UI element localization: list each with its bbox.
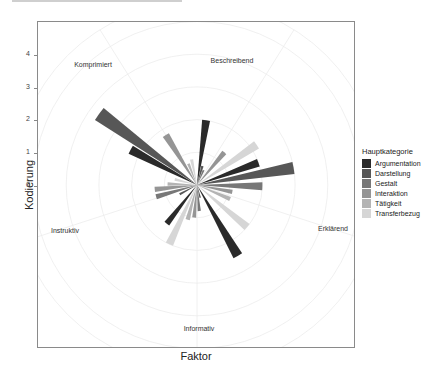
y-tick-2: 2 [26,115,30,122]
legend-swatch [362,169,371,178]
category-label-4: Komprimiert [74,61,112,69]
category-label-3: Instruktiv [51,227,80,234]
legend-swatch [362,199,371,208]
category-label-2: Informativ [184,325,215,332]
legend-item-interaktion: Interaktion [362,188,421,198]
legend-swatch [362,209,371,218]
legend-item-transferbezug: Transferbezug [362,208,421,218]
bar-argumentation [129,146,197,185]
x-axis-title: Faktor [180,350,211,362]
y-tick-mark [34,120,37,121]
legend-title: Hauptkategorie [362,147,421,156]
legend-swatch [362,159,371,168]
y-tick-3: 3 [26,83,30,90]
legend-swatch [362,179,371,188]
category-label-0: Beschreibend [211,57,254,64]
legend-item-taetigkeit: Tätigkeit [362,198,421,208]
bar-darstellung [95,108,197,185]
y-tick-mark [34,88,37,89]
legend: Hauptkategorie Argumentation Darstellung… [362,147,421,218]
legend-item-argumentation: Argumentation [362,158,421,168]
legend-item-darstellung: Darstellung [362,168,421,178]
bars [95,108,295,258]
bar-interaktion [163,133,197,185]
y-tick-0: 0 [26,181,30,188]
y-tick-mark [34,55,37,56]
bar-gestalt [197,185,201,211]
y-tick-mark [34,186,37,187]
y-tick-mark [34,153,37,154]
y-tick-4: 4 [26,50,30,57]
category-label-1: Erklärend [318,225,348,232]
y-tick-1: 1 [26,148,30,155]
legend-item-gestalt: Gestalt [362,178,421,188]
legend-swatch [362,189,371,198]
